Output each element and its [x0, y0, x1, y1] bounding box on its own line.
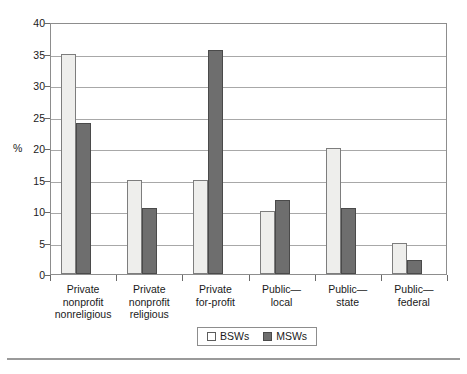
x-tick-mark — [315, 275, 316, 281]
y-tick-label: 10 — [19, 207, 45, 217]
x-tick-mark — [381, 275, 382, 281]
bar-bsw — [260, 211, 275, 274]
x-category-label-line: federal — [368, 296, 460, 309]
bottom-divider-rule — [7, 358, 460, 360]
gridline — [51, 87, 446, 88]
gridline — [51, 56, 446, 57]
legend-label: BSWs — [220, 331, 249, 342]
x-tick-mark — [50, 275, 51, 281]
legend-entry-msws: MSWs — [263, 331, 307, 342]
bar-msw — [142, 208, 157, 274]
x-tick-mark — [447, 275, 448, 281]
plot-area — [50, 23, 447, 275]
gridline — [51, 213, 446, 214]
y-tick-label: 15 — [19, 176, 45, 186]
bar-chart-figure: % 4035302520151050 Privatenonprofitnonre… — [0, 0, 467, 374]
bar-msw — [407, 260, 422, 274]
x-tick-mark — [182, 275, 183, 281]
bar-msw — [208, 50, 223, 274]
bar-bsw — [61, 54, 76, 275]
y-tick-label: 0 — [19, 270, 45, 280]
bar-bsw — [392, 243, 407, 275]
gridline — [51, 150, 446, 151]
x-tick-mark — [249, 275, 250, 281]
x-tick-mark — [116, 275, 117, 281]
gridline — [51, 119, 446, 120]
x-category-label-line: Public— — [368, 283, 460, 296]
bar-msw — [76, 123, 91, 274]
bar-msw — [341, 208, 356, 274]
chart-legend: BSWsMSWs — [197, 327, 317, 346]
bar-bsw — [127, 180, 142, 275]
legend-label: MSWs — [276, 331, 307, 342]
light-square-swatch — [207, 332, 216, 341]
x-category-label: Public—federal — [368, 283, 460, 308]
y-tick-label: 20 — [19, 144, 45, 154]
y-tick-label: 5 — [19, 239, 45, 249]
gridline — [51, 245, 446, 246]
bar-bsw — [193, 180, 208, 275]
legend-entry-bsws: BSWs — [207, 331, 249, 342]
y-tick-label: 35 — [19, 50, 45, 60]
gridline — [51, 182, 446, 183]
bar-bsw — [326, 148, 341, 274]
bar-msw — [275, 200, 290, 274]
dark-square-swatch — [263, 332, 272, 341]
y-tick-label: 30 — [19, 81, 45, 91]
y-tick-label: 40 — [19, 18, 45, 28]
x-category-label-line: religious — [103, 308, 195, 321]
y-tick-label: 25 — [19, 113, 45, 123]
